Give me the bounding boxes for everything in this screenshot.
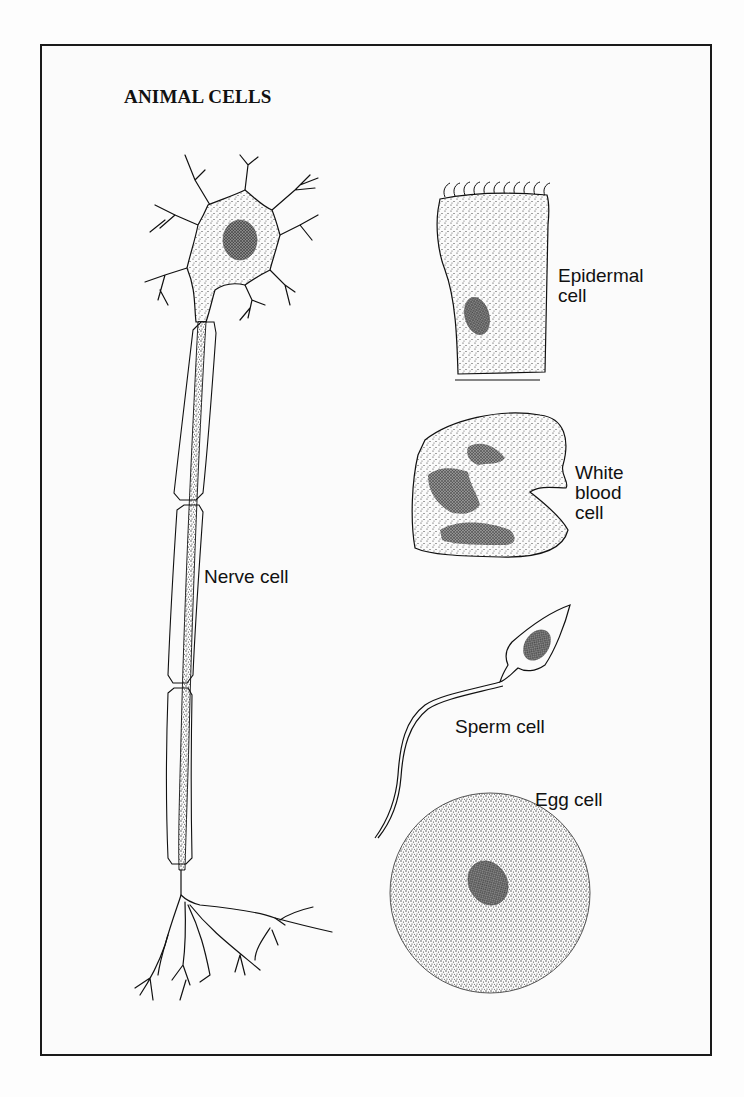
- white-blood-cell: [412, 413, 568, 557]
- egg-cell: [390, 793, 590, 993]
- cells-illustration: [0, 0, 744, 1097]
- white-blood-cell-label-line1: White: [575, 463, 624, 482]
- epidermal-cell-label-line1: Epidermal: [558, 266, 644, 285]
- sperm-cell-label: Sperm cell: [455, 717, 545, 736]
- page: ANIMAL CELLS: [0, 0, 744, 1097]
- nerve-cell-nucleus: [223, 220, 257, 260]
- axon-terminals: [135, 870, 332, 1000]
- epidermal-cell-body: [437, 193, 549, 374]
- axon: [179, 322, 206, 870]
- nerve-cell-label: Nerve cell: [204, 567, 288, 586]
- white-blood-cell-label-line3: cell: [575, 503, 604, 522]
- white-blood-cell-label-line2: blood: [575, 483, 622, 502]
- egg-cell-label: Egg cell: [535, 790, 603, 809]
- epidermal-cell-label-line2: cell: [558, 286, 587, 305]
- epidermal-cell: [437, 182, 550, 380]
